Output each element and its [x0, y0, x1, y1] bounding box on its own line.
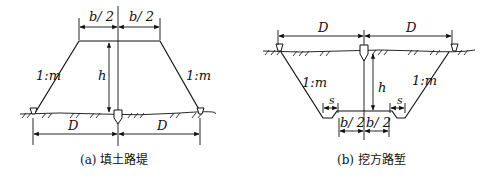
- caption-b: (b) 挖方路堑: [337, 152, 406, 167]
- label-offset-left-a: D: [67, 118, 79, 133]
- cross-section-diagrams: b/ 2 b/ 2 h 1:m 1:m D D (a) 填土路堤: [0, 0, 493, 181]
- label-slope-right-a: 1:m: [186, 68, 211, 83]
- cutting-figure: D D h 1:m 1:m s s b/ 2 b/ 2 (b) 挖方路堑: [263, 20, 475, 167]
- slope-stake-left-b-icon: [276, 44, 283, 51]
- slope-stake-right-icon: [197, 108, 204, 114]
- center-stake-b-icon: [360, 45, 368, 61]
- label-top-half-right: b/ 2: [129, 9, 154, 24]
- label-bottom-half-right: b/ 2: [366, 115, 391, 130]
- label-slope-right-b: 1:m: [412, 73, 437, 88]
- label-slope-left-a: 1:m: [36, 68, 61, 83]
- label-height-b: h: [378, 80, 386, 95]
- label-bottom-half-left: b/ 2: [340, 115, 365, 130]
- center-stake-icon: [114, 110, 122, 124]
- label-top-half-left: b/ 2: [89, 9, 114, 24]
- ground-line-b: [263, 50, 475, 52]
- caption-a: (a) 填土路堤: [80, 152, 148, 167]
- label-offset-right-b: D: [405, 20, 417, 35]
- label-offset-right-a: D: [156, 118, 168, 133]
- label-offset-left-b: D: [317, 20, 329, 35]
- label-ditch-left: s: [329, 94, 335, 107]
- label-slope-left-b: 1:m: [302, 75, 327, 90]
- embankment-figure: b/ 2 b/ 2 h 1:m 1:m D D (a) 填土路堤: [20, 6, 216, 167]
- label-height-a: h: [98, 68, 106, 83]
- slope-stake-right-b-icon: [451, 44, 458, 51]
- label-ditch-right: s: [397, 94, 403, 107]
